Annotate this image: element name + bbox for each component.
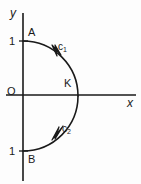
curve-label-c1-subscript: 1	[63, 46, 67, 53]
x-axis-label: x	[127, 97, 133, 109]
contour-diagram: y x O 1 1 A B K c1 c2	[0, 0, 141, 184]
point-label-b: B	[28, 154, 35, 165]
origin-label: O	[7, 86, 16, 97]
curve-label-c2: c2	[62, 124, 71, 134]
y-tick-upper-label: 1	[9, 36, 15, 47]
curve-label-c1: c1	[58, 42, 67, 52]
axes-group	[6, 13, 136, 181]
diagram-canvas	[0, 0, 141, 184]
y-tick-lower-label: 1	[9, 146, 15, 157]
point-label-k: K	[64, 78, 71, 89]
point-label-a: A	[28, 27, 35, 38]
y-axis-label: y	[10, 7, 16, 19]
curve-label-c2-subscript: 2	[67, 128, 71, 135]
